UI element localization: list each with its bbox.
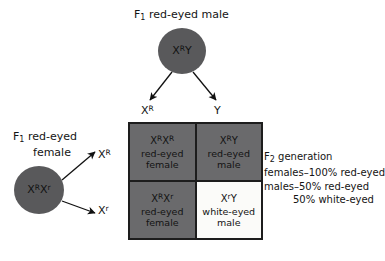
punnett-cell-sex: male [217,217,241,229]
f2-summary-line-2: females–100% red-eyed [264,166,385,180]
male-parent-circle: XRY [158,28,206,74]
female-parent-genotype: XRXr [27,183,50,196]
punnett-cell-sex: male [217,159,241,171]
female-parent-label: F1 red-eyed female [13,130,77,159]
punnett-cell-phenotype: red-eyed [141,148,183,160]
female-parent-label-line2: female [19,146,71,159]
arrow-female-to-gamete-2 [62,201,95,213]
punnett-cell-bottom-left: XRXr red-eyed female [130,182,195,238]
punnett-cell-phenotype: red-eyed [208,148,250,160]
female-parent-label-line1: red-eyed [24,130,77,143]
female-gamete-label-1: XR [98,148,111,161]
punnett-cell-phenotype: red-eyed [141,206,183,218]
male-gamete-label-1: XR [141,104,154,117]
punnett-cell-sex: female [146,217,179,229]
female-parent-circle: XRXr [14,166,64,214]
arrow-male-to-gamete-2 [193,72,216,100]
male-parent-label-text: red-eyed male [145,8,228,21]
punnett-cell-phenotype: white-eyed [202,206,255,218]
male-parent-genotype: XRY [172,44,192,57]
f2-summary-line-3: males–50% red-eyed [264,180,385,194]
f2-summary-line-1: F2 generation [264,150,385,166]
punnett-cell-genotype: XRY [220,133,238,147]
punnett-cell-sex: female [146,159,179,171]
f2-generation-summary: F2 generation females–100% red-eyed male… [264,150,385,207]
punnett-cell-genotype: XRXr [151,191,173,205]
male-gamete-label-2: Y [214,104,221,117]
punnett-cell-genotype: XRXR [150,133,174,147]
punnett-cell-genotype: XrY [221,191,237,205]
punnett-square: XRXR red-eyed female XRY red-eyed male X… [128,122,263,240]
punnett-cell-top-left: XRXR red-eyed female [130,124,195,180]
f2-summary-line-4: 50% white-eyed [264,193,385,207]
male-parent-label: F1 red-eyed male [134,8,229,24]
punnett-cell-top-right: XRY red-eyed male [197,124,262,180]
female-gamete-label-2: Xr [98,204,109,217]
arrow-male-to-gamete-1 [150,72,172,100]
punnett-cell-bottom-right: XrY white-eyed male [197,182,262,238]
